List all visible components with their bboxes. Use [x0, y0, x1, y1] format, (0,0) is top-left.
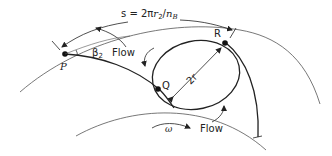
point-q-dot — [155, 86, 161, 92]
impeller-slip-diagram: s = 2πr2/nB P Q R β2 Flow Flow ω 2r — [0, 0, 332, 156]
flow-arrow-top — [96, 28, 126, 47]
diagram-svg: s = 2πr2/nB P Q R β2 Flow Flow ω 2r — [0, 0, 332, 156]
eddy-rotation-arrow — [144, 48, 154, 66]
diameter-arrow — [173, 48, 221, 97]
pitch-formula-s: s = 2 — [121, 8, 147, 19]
flow-label-top: Flow — [112, 47, 135, 58]
relative-eddy-circle — [146, 33, 246, 118]
point-p-label: P — [59, 61, 67, 72]
pitch-formula-subB: B — [171, 13, 177, 21]
pitch-tick-left — [52, 41, 60, 50]
svg-text:s = 2πr2/nB: s = 2πr2/nB — [121, 8, 178, 21]
point-r-dot — [222, 40, 228, 46]
blade-r — [226, 43, 258, 137]
flow-arrow-bottom — [212, 106, 224, 122]
diameter-label: 2r — [184, 71, 200, 87]
flow-label-bottom: Flow — [200, 123, 223, 134]
pitch-arc-right — [180, 20, 232, 30]
point-q-label: Q — [162, 80, 170, 91]
omega-label: ω — [165, 124, 173, 134]
point-r-label: R — [214, 28, 221, 39]
beta-sub-label: 2 — [98, 52, 102, 60]
